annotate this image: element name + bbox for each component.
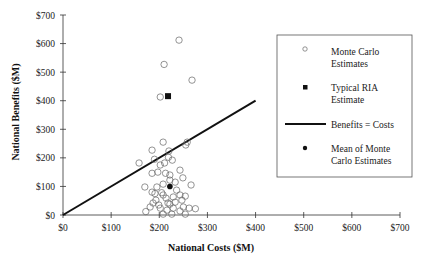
x-tick-label: $500 xyxy=(294,223,313,233)
monte-carlo-point xyxy=(180,204,186,210)
legend-label-benefits-costs: Benefits = Costs xyxy=(331,120,394,130)
scatter-chart: $0$100$200$300$400$500$600$700 $0$100$20… xyxy=(0,0,424,265)
monte-carlo-point xyxy=(170,205,176,211)
x-tick-label: $100 xyxy=(102,223,121,233)
monte-carlo-point xyxy=(149,147,155,153)
monte-carlo-point xyxy=(136,160,142,166)
mean-monte-carlo-marker xyxy=(167,184,173,190)
monte-carlo-point xyxy=(177,167,183,173)
legend-label-monte-carlo-2: Estimates xyxy=(331,59,368,69)
x-tick-label: $700 xyxy=(391,223,410,233)
y-axis-ticks: $0$100$200$300$400$500$600$700 xyxy=(36,11,66,221)
monte-carlo-point xyxy=(167,201,173,207)
x-tick-label: $200 xyxy=(150,223,169,233)
monte-carlo-point xyxy=(192,206,198,212)
monte-carlo-point xyxy=(162,170,168,176)
filled-circle-icon xyxy=(303,146,307,150)
monte-carlo-point xyxy=(149,170,155,176)
legend-label-monte-carlo: Monte Carlo xyxy=(331,47,380,57)
x-tick-label: $400 xyxy=(246,223,265,233)
monte-carlo-point xyxy=(143,208,149,214)
monte-carlo-point xyxy=(188,182,194,188)
x-axis-title: National Costs ($M) xyxy=(168,242,254,254)
y-tick-label: $600 xyxy=(36,39,55,49)
legend: Monte Carlo Estimates Typical RIA Estima… xyxy=(277,35,412,177)
x-tick-label: $0 xyxy=(58,223,68,233)
monte-carlo-point xyxy=(169,211,175,217)
monte-carlo-point xyxy=(157,94,163,100)
y-tick-label: $100 xyxy=(36,182,55,192)
typical-ria-estimate-marker xyxy=(165,93,171,99)
x-tick-label: $600 xyxy=(342,223,361,233)
y-tick-label: $500 xyxy=(36,68,55,78)
monte-carlo-point xyxy=(158,190,164,196)
y-axis-title: National Benefits ($M) xyxy=(10,63,22,160)
monte-carlo-point xyxy=(155,169,161,175)
monte-carlo-point xyxy=(160,211,166,217)
monte-carlo-point xyxy=(160,181,166,187)
y-tick-label: $200 xyxy=(36,153,55,163)
monte-carlo-point xyxy=(186,205,192,211)
legend-label-ria: Typical RIA xyxy=(331,83,378,93)
y-tick-label: $400 xyxy=(36,96,55,106)
monte-carlo-point xyxy=(161,61,167,67)
legend-label-mean: Mean of Monte xyxy=(331,144,390,154)
legend-label-ria-2: Estimate xyxy=(331,95,364,105)
legend-label-mean-2: Carlo Estimates xyxy=(331,156,392,166)
x-tick-label: $300 xyxy=(198,223,217,233)
monte-carlo-point xyxy=(176,37,182,43)
monte-carlo-point xyxy=(180,175,186,181)
monte-carlo-points xyxy=(136,37,199,217)
y-tick-label: $300 xyxy=(36,125,55,135)
monte-carlo-point xyxy=(177,208,183,214)
benefits-equals-costs-line xyxy=(63,101,256,215)
y-tick-label: $0 xyxy=(46,211,56,221)
y-tick-label: $700 xyxy=(36,11,55,21)
monte-carlo-point xyxy=(154,184,160,190)
filled-square-icon xyxy=(303,85,308,90)
monte-carlo-point xyxy=(160,139,166,145)
monte-carlo-point xyxy=(189,77,195,83)
open-circle-icon xyxy=(303,47,307,51)
monte-carlo-point xyxy=(142,184,148,190)
